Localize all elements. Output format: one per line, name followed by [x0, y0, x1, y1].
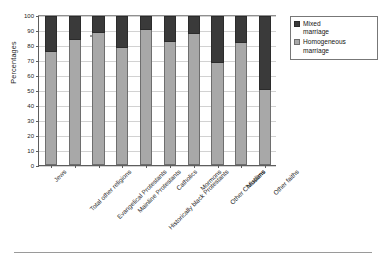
bar-segment-mixed[interactable]	[69, 16, 81, 40]
legend-label-mixed: Mixed marriage	[303, 20, 329, 36]
bar-group[interactable]	[259, 16, 271, 165]
legend-label-homogeneous-line1: Homogeneous	[303, 38, 346, 45]
bar-group[interactable]	[140, 16, 152, 165]
x-axis-label: Jews	[52, 168, 67, 183]
legend-label-mixed-line2: marriage	[303, 28, 329, 35]
bar-segment-mixed[interactable]	[45, 16, 57, 52]
bar-group[interactable]	[92, 16, 104, 165]
legend-label-mixed-line1: Mixed	[303, 20, 321, 27]
bar-segment-homogeneous[interactable]	[116, 47, 128, 166]
scan-artifact-mark	[90, 35, 92, 37]
y-tick-label: 80	[27, 43, 34, 49]
bar-segment-homogeneous[interactable]	[164, 41, 176, 166]
chart-legend: Mixed marriage Homogeneous marriage	[290, 16, 378, 60]
bar-segment-homogeneous[interactable]	[211, 62, 223, 166]
chart-figure: Percentages 0102030405060708090100 JewsT…	[0, 0, 384, 268]
bar-segment-mixed[interactable]	[116, 16, 128, 48]
bar-group[interactable]	[164, 16, 176, 165]
y-tick-label: 40	[27, 103, 34, 109]
bar-segment-mixed[interactable]	[188, 16, 200, 34]
bar-segment-mixed[interactable]	[235, 16, 247, 43]
bar-segment-mixed[interactable]	[140, 16, 152, 30]
bars-layer	[39, 16, 276, 165]
legend-item-homogeneous-marriage: Homogeneous marriage	[294, 38, 373, 54]
bar-segment-homogeneous[interactable]	[259, 89, 271, 166]
legend-label-homogeneous: Homogeneous marriage	[303, 38, 346, 54]
bar-group[interactable]	[188, 16, 200, 165]
y-axis-title: Percentages	[9, 23, 18, 103]
bar-segment-homogeneous[interactable]	[45, 51, 57, 165]
bar-segment-homogeneous[interactable]	[69, 39, 81, 165]
bar-group[interactable]	[69, 16, 81, 165]
homogeneous-swatch-icon	[294, 39, 300, 45]
bar-group[interactable]	[211, 16, 223, 165]
y-tick-label: 10	[27, 148, 34, 154]
mixed-swatch-icon	[294, 21, 300, 27]
x-axis-label: Other faiths	[272, 168, 300, 196]
plot-area: 0102030405060708090100	[38, 16, 276, 166]
bar-group[interactable]	[116, 16, 128, 165]
y-tick-label: 20	[27, 133, 34, 139]
bar-segment-mixed[interactable]	[259, 16, 271, 90]
bar-segment-homogeneous[interactable]	[140, 29, 152, 166]
bar-group[interactable]	[235, 16, 247, 165]
legend-label-homogeneous-line2: marriage	[303, 47, 329, 54]
bar-segment-homogeneous[interactable]	[188, 33, 200, 165]
bar-group[interactable]	[45, 16, 57, 165]
y-tick-label: 0	[31, 163, 34, 169]
legend-item-mixed-marriage: Mixed marriage	[294, 20, 373, 36]
x-axis-label: Muslims	[245, 168, 267, 190]
bar-segment-homogeneous[interactable]	[235, 42, 247, 165]
bar-segment-mixed[interactable]	[92, 16, 104, 33]
y-tick-mark	[36, 166, 39, 167]
y-tick-label: 60	[27, 73, 34, 79]
y-tick-label: 50	[27, 88, 34, 94]
bar-segment-homogeneous[interactable]	[92, 32, 104, 166]
y-tick-label: 70	[27, 58, 34, 64]
bar-segment-mixed[interactable]	[164, 16, 176, 42]
x-axis-labels: JewsTotal other religionsEvangelical Pro…	[38, 168, 276, 248]
bar-segment-mixed[interactable]	[211, 16, 223, 63]
y-tick-label: 90	[27, 28, 34, 34]
y-tick-label: 100	[24, 13, 34, 19]
footer-divider	[14, 252, 372, 253]
y-tick-label: 30	[27, 118, 34, 124]
